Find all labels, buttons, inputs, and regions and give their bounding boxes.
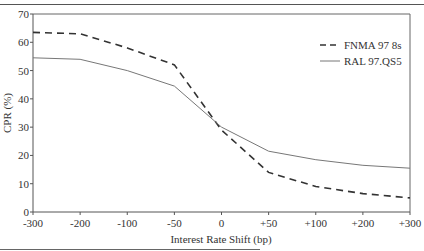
series-ral-97-qs5 [33, 58, 410, 168]
x-tick-label: -200 [70, 217, 91, 229]
y-axis: 010203040506070 [18, 8, 33, 218]
x-tick-label: 0 [219, 217, 225, 229]
legend-label-ral: RAL 97.QS5 [344, 55, 402, 67]
y-tick-label: 30 [18, 121, 30, 133]
bottom-rule [0, 249, 260, 250]
x-tick-label: +50 [260, 217, 278, 229]
legend: FNMA 97 8s RAL 97.QS5 [320, 39, 402, 67]
x-tick-label: -50 [167, 217, 182, 229]
x-tick-label: +200 [352, 217, 375, 229]
x-tick-label: +100 [304, 217, 327, 229]
y-tick-label: 60 [18, 36, 30, 48]
y-axis-title: CPR (%) [1, 93, 14, 133]
y-tick-label: 10 [18, 178, 30, 190]
y-tick-label: 50 [18, 65, 30, 77]
y-tick-label: 40 [18, 93, 30, 105]
x-axis: -300-200-100-500+50+100+200+300 [23, 212, 422, 229]
y-tick-label: 70 [18, 8, 30, 20]
y-tick-label: 20 [18, 149, 30, 161]
x-tick-label: -300 [23, 217, 44, 229]
x-axis-title: Interest Rate Shift (bp) [170, 233, 271, 246]
x-tick-label: -100 [117, 217, 138, 229]
cpr-line-chart: 010203040506070 -300-200-100-500+50+100+… [0, 0, 424, 251]
x-tick-label: +300 [399, 217, 422, 229]
legend-label-fnma: FNMA 97 8s [344, 39, 401, 51]
